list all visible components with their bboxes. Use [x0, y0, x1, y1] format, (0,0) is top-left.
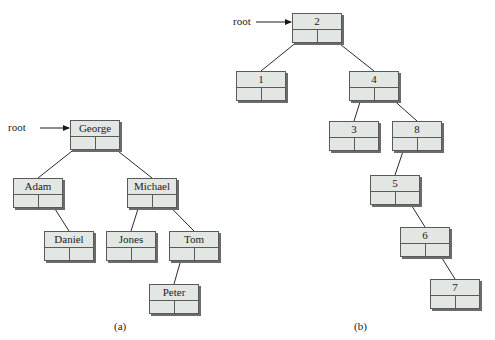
node-links: [431, 296, 479, 310]
tree-node: Daniel: [44, 231, 94, 261]
node-links: [170, 248, 218, 262]
tree-edges: [0, 0, 495, 340]
node-links: [393, 138, 441, 152]
right-link-cell: [96, 137, 120, 151]
node-links: [401, 244, 449, 258]
left-link-cell: [71, 137, 96, 151]
node-label: Tom: [170, 232, 218, 248]
node-label: George: [71, 121, 119, 137]
caption-b: (b): [354, 320, 367, 332]
tree-node: 6: [400, 227, 450, 257]
node-label: 5: [371, 176, 419, 192]
tree-node: Tom: [169, 231, 219, 261]
node-links: [350, 88, 398, 102]
tree-node: 2: [292, 13, 342, 43]
tree-node: 8: [392, 121, 442, 151]
right-link-cell: [153, 195, 177, 209]
node-links: [371, 192, 419, 206]
left-link-cell: [128, 195, 153, 209]
tree-node: 3: [329, 121, 379, 151]
left-link-cell: [330, 138, 355, 152]
left-link-cell: [393, 138, 418, 152]
right-link-cell: [39, 195, 63, 209]
left-link-cell: [431, 296, 456, 310]
node-label: Daniel: [45, 232, 93, 248]
right-link-cell: [132, 248, 156, 262]
node-label: 7: [431, 280, 479, 296]
caption-a: (a): [114, 320, 126, 332]
left-link-cell: [401, 244, 426, 258]
root-label: root: [8, 121, 26, 133]
node-label: 1: [237, 72, 285, 88]
right-link-cell: [426, 244, 450, 258]
tree-node: Michael: [127, 178, 177, 208]
tree-node: Peter: [149, 284, 199, 314]
left-link-cell: [170, 248, 195, 262]
node-links: [45, 248, 93, 262]
tree-node: 4: [349, 71, 399, 101]
left-link-cell: [237, 88, 262, 102]
right-link-cell: [318, 30, 342, 44]
binary-tree-figure: root GeorgeAdamMichaelDanielJonesTomPete…: [0, 0, 495, 340]
node-label: 6: [401, 228, 449, 244]
tree-node: Jones: [106, 231, 156, 261]
node-links: [107, 248, 155, 262]
right-link-cell: [418, 138, 442, 152]
node-links: [14, 195, 62, 209]
tree-node: George: [70, 120, 120, 150]
root-label: root: [233, 15, 251, 27]
left-link-cell: [45, 248, 70, 262]
right-link-cell: [355, 138, 379, 152]
node-label: 3: [330, 122, 378, 138]
node-label: 2: [293, 14, 341, 30]
node-label: 4: [350, 72, 398, 88]
node-links: [128, 195, 176, 209]
tree-node: 1: [236, 71, 286, 101]
left-link-cell: [371, 192, 396, 206]
node-label: Adam: [14, 179, 62, 195]
node-links: [330, 138, 378, 152]
node-label: 8: [393, 122, 441, 138]
right-link-cell: [456, 296, 480, 310]
right-link-cell: [195, 248, 219, 262]
left-link-cell: [14, 195, 39, 209]
right-link-cell: [262, 88, 286, 102]
node-label: Michael: [128, 179, 176, 195]
node-links: [293, 30, 341, 44]
node-label: Peter: [150, 285, 198, 301]
tree-node: 7: [430, 279, 480, 309]
node-label: Jones: [107, 232, 155, 248]
tree-node: 5: [370, 175, 420, 205]
right-link-cell: [175, 301, 199, 315]
right-link-cell: [375, 88, 399, 102]
left-link-cell: [107, 248, 132, 262]
left-link-cell: [150, 301, 175, 315]
node-links: [237, 88, 285, 102]
right-link-cell: [396, 192, 420, 206]
left-link-cell: [293, 30, 318, 44]
tree-node: Adam: [13, 178, 63, 208]
right-link-cell: [70, 248, 94, 262]
node-links: [71, 137, 119, 151]
left-link-cell: [350, 88, 375, 102]
node-links: [150, 301, 198, 315]
